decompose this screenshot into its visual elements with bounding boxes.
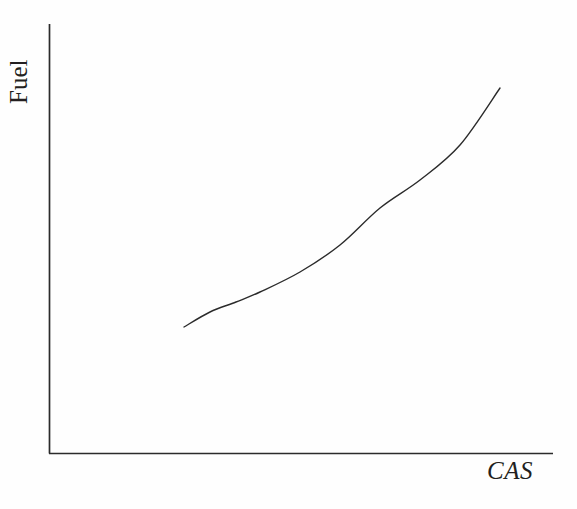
chart-figure: Fuel CAS: [0, 0, 577, 509]
plot-area: [0, 0, 577, 509]
data-curve-fuel-vs-cas: [184, 88, 500, 327]
x-axis-label: CAS: [487, 458, 533, 483]
y-axis-label: Fuel: [6, 38, 31, 104]
